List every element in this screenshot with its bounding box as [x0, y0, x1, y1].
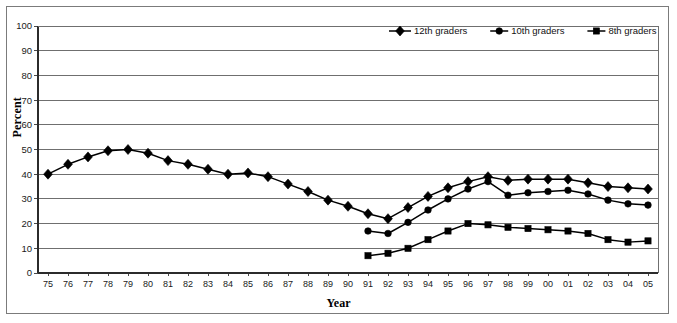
x-tick-label: 84 — [223, 279, 233, 289]
legend-label: 12th graders — [414, 25, 468, 36]
x-tick-label: 02 — [583, 279, 593, 289]
data-point-square — [465, 221, 471, 227]
data-point-square — [545, 227, 551, 233]
data-point-diamond — [396, 26, 405, 36]
legend-label: 10th graders — [511, 25, 565, 36]
y-tick-label: 40 — [21, 169, 32, 180]
legend-item-10th-graders[interactable]: 10th graders — [490, 25, 565, 36]
x-tick-label: 95 — [443, 279, 453, 289]
data-point-diamond — [44, 169, 53, 179]
data-point-square — [425, 237, 431, 243]
data-point-diamond — [624, 183, 633, 193]
data-point-diamond — [204, 164, 213, 174]
data-point-circle — [425, 207, 432, 214]
x-tick-label: 75 — [43, 279, 53, 289]
data-point-square — [405, 245, 411, 251]
data-point-square — [365, 253, 371, 259]
x-tick-label: 92 — [383, 279, 393, 289]
data-point-square — [385, 250, 391, 256]
y-tick-label: 20 — [21, 218, 32, 229]
y-axis-ticks: 0102030405060708090100 — [16, 20, 38, 278]
data-point-diamond — [364, 209, 373, 219]
data-point-diamond — [564, 174, 573, 184]
x-tick-label: 81 — [163, 279, 173, 289]
data-point-diamond — [64, 159, 73, 169]
x-tick-label: 78 — [103, 279, 113, 289]
data-point-circle — [605, 197, 612, 204]
data-point-circle — [496, 28, 503, 35]
data-point-diamond — [524, 174, 533, 184]
data-point-circle — [465, 186, 472, 193]
x-tick-label: 82 — [183, 279, 193, 289]
x-tick-label: 91 — [363, 279, 373, 289]
data-point-circle — [585, 191, 592, 198]
x-tick-label: 03 — [603, 279, 613, 289]
x-tick-label: 83 — [203, 279, 213, 289]
data-point-circle — [445, 196, 452, 203]
data-point-square — [593, 28, 599, 34]
data-point-circle — [405, 219, 412, 226]
x-tick-label: 88 — [303, 279, 313, 289]
legend-label: 8th graders — [608, 25, 656, 36]
x-tick-label: 79 — [123, 279, 133, 289]
data-point-diamond — [264, 172, 273, 182]
x-tick-label: 05 — [643, 279, 653, 289]
data-point-diamond — [644, 184, 653, 194]
x-tick-label: 00 — [543, 279, 553, 289]
data-point-diamond — [104, 146, 113, 156]
chart-legend: 12th graders10th graders8th graders — [389, 25, 657, 36]
data-series — [44, 145, 653, 259]
x-tick-label: 87 — [283, 279, 293, 289]
data-point-diamond — [424, 191, 433, 201]
x-tick-label: 85 — [243, 279, 253, 289]
data-point-diamond — [464, 177, 473, 187]
x-tick-label: 94 — [423, 279, 433, 289]
data-point-circle — [565, 187, 572, 194]
legend-item-12th-graders[interactable]: 12th graders — [389, 25, 468, 36]
data-point-square — [445, 228, 451, 234]
data-point-diamond — [584, 178, 593, 188]
x-tick-label: 97 — [483, 279, 493, 289]
data-point-square — [565, 228, 571, 234]
y-tick-label: 70 — [21, 95, 32, 106]
data-point-circle — [525, 189, 532, 196]
data-point-square — [525, 225, 531, 231]
legend-item-8th-graders[interactable]: 8th graders — [587, 25, 656, 36]
y-tick-label: 50 — [21, 144, 32, 155]
y-tick-label: 80 — [21, 70, 32, 81]
data-point-diamond — [444, 183, 453, 193]
data-point-diamond — [504, 175, 513, 185]
x-tick-label: 96 — [463, 279, 473, 289]
data-point-circle — [545, 188, 552, 195]
y-tick-label: 10 — [21, 243, 32, 254]
x-tick-label: 98 — [503, 279, 513, 289]
data-point-circle — [485, 178, 492, 185]
data-point-diamond — [244, 168, 253, 178]
x-tick-label: 93 — [403, 279, 413, 289]
y-tick-label: 30 — [21, 193, 32, 204]
data-point-diamond — [84, 152, 93, 162]
y-tick-label: 90 — [21, 45, 32, 56]
y-tick-label: 100 — [16, 20, 32, 31]
x-tick-label: 90 — [343, 279, 353, 289]
y-tick-label: 60 — [21, 119, 32, 130]
data-point-diamond — [184, 159, 193, 169]
data-point-diamond — [324, 195, 333, 205]
series-8th-graders — [365, 221, 651, 259]
x-tick-label: 01 — [563, 279, 573, 289]
x-tick-label: 80 — [143, 279, 153, 289]
data-point-square — [605, 237, 611, 243]
data-point-diamond — [224, 169, 233, 179]
data-point-square — [625, 239, 631, 245]
data-point-square — [485, 222, 491, 228]
x-tick-label: 86 — [263, 279, 273, 289]
series-12th-graders — [44, 145, 653, 224]
data-point-diamond — [604, 182, 613, 192]
data-point-circle — [365, 228, 372, 235]
data-point-circle — [625, 201, 632, 208]
data-point-diamond — [304, 186, 313, 196]
data-point-square — [505, 224, 511, 230]
y-tick-label: 0 — [27, 267, 32, 278]
data-point-diamond — [284, 179, 293, 189]
data-point-diamond — [124, 145, 133, 155]
